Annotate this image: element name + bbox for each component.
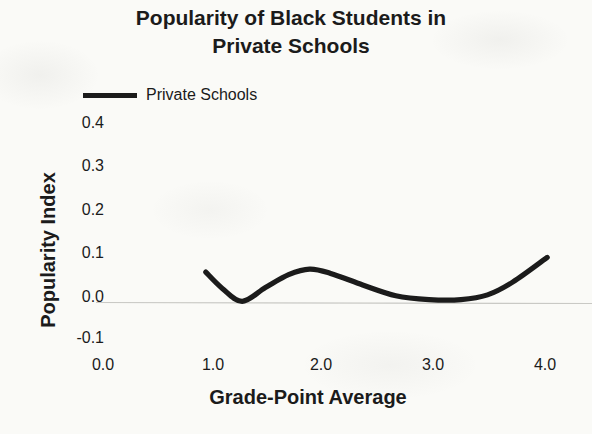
x-tick-label: 3.0 <box>411 355 455 375</box>
zero-axis-line <box>96 303 592 304</box>
x-tick-label: 1.0 <box>191 355 235 375</box>
x-tick-label: 0.0 <box>81 355 125 375</box>
chart-figure: Popularity of Black Students in Private … <box>0 0 592 434</box>
data-line-private-schools <box>206 257 547 301</box>
x-axis-title: Grade-Point Average <box>158 385 458 409</box>
x-tick-label: 2.0 <box>299 355 343 375</box>
x-tick-label: 4.0 <box>523 355 567 375</box>
